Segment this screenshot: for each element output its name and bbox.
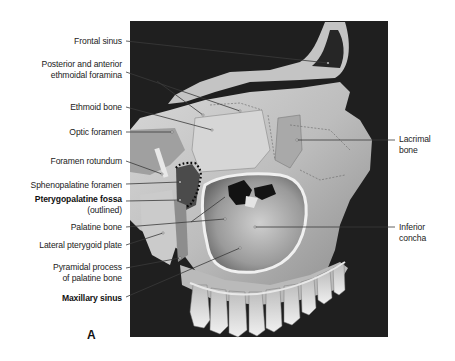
label-optic-foramen: Optic foramen xyxy=(69,127,122,138)
anatomy-figure: Frontal sinus Posterior and anterior eth… xyxy=(0,0,455,361)
label-foramen-rotundum: Foramen rotundum xyxy=(51,156,122,167)
label-sphenopalatine-foramen: Sphenopalatine foramen xyxy=(31,180,122,191)
label-ethmoidal-foramina: Posterior and anterior ethmoidal foramin… xyxy=(42,59,122,80)
label-pterygopalatine-fossa: Pterygopalatine fossa (outlined) xyxy=(35,194,122,215)
label-frontal-sinus: Frontal sinus xyxy=(74,36,122,47)
label-maxillary-sinus: Maxillary sinus xyxy=(62,293,122,304)
label-inferior-concha: Inferior concha xyxy=(399,222,426,243)
label-ethmoid-bone: Ethmoid bone xyxy=(70,102,122,113)
label-palatine-bone: Palatine bone xyxy=(71,222,122,233)
label-lateral-pterygoid-plate: Lateral pterygoid plate xyxy=(39,240,122,251)
label-lacrimal-bone: Lacrimal bone xyxy=(399,134,431,155)
label-pyramidal-process: Pyramidal process of palatine bone xyxy=(53,262,122,283)
panel-letter: A xyxy=(87,328,96,342)
